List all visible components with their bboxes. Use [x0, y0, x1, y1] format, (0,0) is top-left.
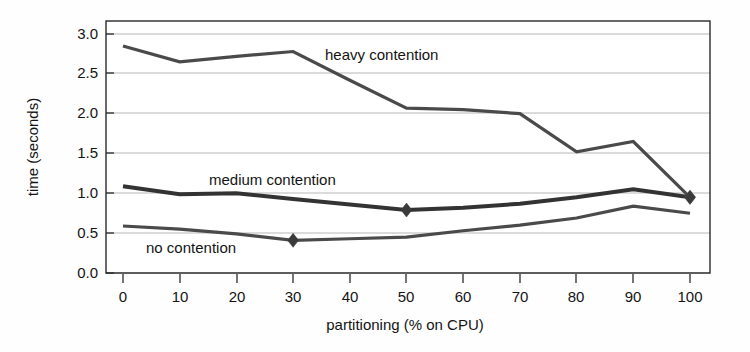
- y-tick-labels: 0.0 0.5 1.0 1.5 2.0 2.5 3.0: [77, 25, 98, 281]
- annotation-no-contention: no contention: [146, 239, 236, 256]
- y-tick-label-0-0: 0.0: [77, 264, 98, 281]
- y-tick-label-2-0: 2.0: [77, 104, 98, 121]
- annotation-heavy-contention: heavy contention: [325, 46, 438, 63]
- x-tick-labels: 0 10 20 30 40 50 60 70 80 90 100: [119, 288, 703, 305]
- x-tick-label-20: 20: [229, 288, 246, 305]
- x-tick-label-40: 40: [342, 288, 359, 305]
- x-tick-label-70: 70: [512, 288, 529, 305]
- x-tickmarks: [123, 274, 690, 283]
- y-axis-title: time (seconds): [24, 98, 41, 196]
- y-tick-label-2-5: 2.5: [77, 64, 98, 81]
- x-tick-label-90: 90: [625, 288, 642, 305]
- x-axis-title: partitioning (% on CPU): [326, 316, 484, 333]
- x-tick-label-30: 30: [285, 288, 302, 305]
- line-chart: 0.0 0.5 1.0 1.5 2.0 2.5 3.0 0 10 20: [0, 0, 750, 352]
- chart-figure: 0.0 0.5 1.0 1.5 2.0 2.5 3.0 0 10 20: [0, 0, 750, 352]
- x-tick-label-10: 10: [172, 288, 189, 305]
- y-tick-label-3-0: 3.0: [77, 25, 98, 42]
- y-tick-label-1-5: 1.5: [77, 144, 98, 161]
- y-tick-label-0-5: 0.5: [77, 224, 98, 241]
- x-tick-label-100: 100: [677, 288, 702, 305]
- y-tick-label-1-0: 1.0: [77, 184, 98, 201]
- annotation-medium-contention: medium contention: [209, 171, 336, 188]
- x-tick-label-80: 80: [568, 288, 585, 305]
- x-tick-label-60: 60: [455, 288, 472, 305]
- x-tick-label-0: 0: [119, 288, 127, 305]
- x-tick-label-50: 50: [398, 288, 415, 305]
